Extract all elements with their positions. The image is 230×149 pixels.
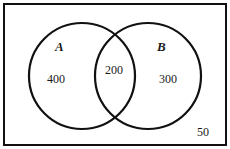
- outside-count: 50: [197, 126, 209, 138]
- venn-diagram: A B 400 200 300 50: [0, 0, 230, 149]
- set-a-only-count: 400: [47, 73, 65, 85]
- intersection-count: 200: [105, 64, 123, 76]
- set-b-only-count: 300: [159, 73, 177, 85]
- set-a-label: A: [55, 40, 64, 53]
- set-b-label: B: [157, 40, 166, 53]
